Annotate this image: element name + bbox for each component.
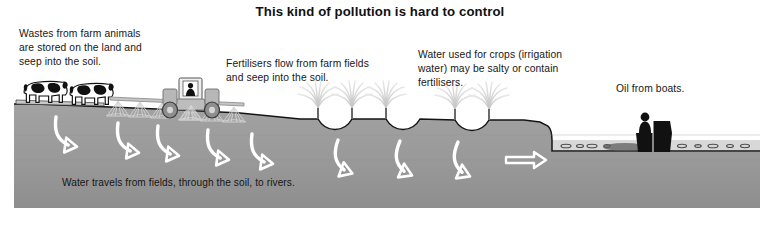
boat: [636, 113, 672, 152]
irrigation-sprinkler: [332, 81, 372, 119]
cow: [24, 81, 68, 102]
callout-irrigation: Water used for crops (irrigation water) …: [418, 48, 613, 91]
caption-water-travel: Water travels from fields, through the s…: [62, 177, 295, 188]
cow: [70, 83, 114, 104]
callout-fertilisers: Fertilisers flow from farm fields and se…: [226, 57, 416, 85]
callout-oil: Oil from boats.: [616, 82, 736, 96]
irrigation-sprinkler: [366, 81, 406, 119]
irrigation-sprinkler: [298, 81, 338, 119]
callout-farm-animals: Wastes from farm animals are stored on t…: [19, 27, 199, 70]
diagram-canvas: This kind of pollution is hard to contro…: [0, 0, 760, 228]
cow-group: [16, 81, 114, 106]
